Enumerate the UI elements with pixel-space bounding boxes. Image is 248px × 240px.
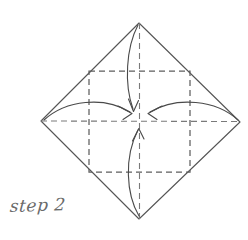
fold-arrow-right xyxy=(148,102,238,120)
center-crease-lines xyxy=(41,23,240,219)
fold-arrows xyxy=(44,25,238,216)
paper-diamond xyxy=(41,23,240,219)
step-caption: step 2 xyxy=(9,194,66,216)
fold-arrow-top xyxy=(127,25,138,112)
horizontal-crease-line xyxy=(41,121,240,122)
